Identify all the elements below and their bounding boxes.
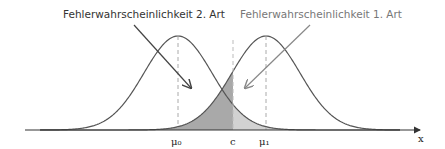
tick-mu0: μ₀ <box>171 136 182 147</box>
x-axis-label: x <box>418 133 424 144</box>
type1-arrow <box>245 25 310 88</box>
tick-c: c <box>230 136 236 147</box>
type2-error-label: Fehlerwahrscheinlichkeit 2. Art <box>63 8 225 20</box>
tick-mu1: μ₁ <box>259 136 270 147</box>
type2-error-region <box>40 71 233 130</box>
type1-error-label: Fehlerwahrscheinlichkeit 1. Art <box>240 8 402 20</box>
type2-arrow <box>134 25 191 88</box>
hypothesis-test-diagram: Fehlerwahrscheinlichkeit 2. Art Fehlerwa… <box>0 0 445 149</box>
type1-overlap-region <box>233 105 400 130</box>
